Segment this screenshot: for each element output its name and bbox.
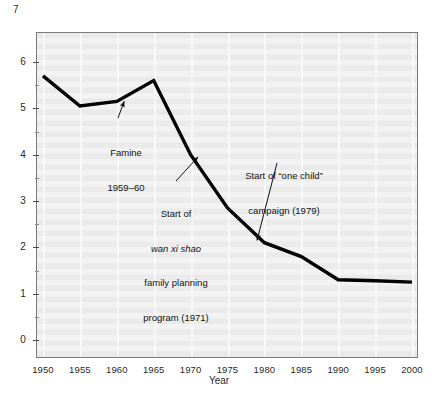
x-tick-label-1965: 1965 (134, 364, 174, 375)
y-tick-2 (33, 247, 39, 248)
x-tick-label-1985: 1985 (281, 364, 321, 375)
y-minor-tick-3.5 (35, 178, 39, 179)
annotation-wan-xi-shao-line-2: wan xi shao (128, 243, 224, 255)
y-tick-label-3: 3 (0, 195, 26, 206)
y-tick-label-6: 6 (0, 56, 26, 67)
y-tick-label-2: 2 (0, 241, 26, 252)
x-tick-label-1975: 1975 (208, 364, 248, 375)
annotation-one-child: Start of “one child” campaign (1979) (224, 147, 344, 239)
x-tick-label-1995: 1995 (355, 364, 395, 375)
y-tick-label-5: 5 (0, 102, 26, 113)
x-tick-label-1950: 1950 (23, 364, 63, 375)
y-tick-label-1: 1 (0, 288, 26, 299)
x-tick-label-1980: 1980 (244, 364, 284, 375)
x-tick-label-1990: 1990 (318, 364, 358, 375)
annotation-wan-xi-shao: Start of wan xi shao family planning pro… (128, 185, 224, 346)
y-tick-4 (33, 155, 39, 156)
gridline-1950 (43, 33, 45, 357)
annotation-one-child-line-2: campaign (1979) (224, 205, 344, 217)
annotation-famine-line-1: Famine (88, 147, 164, 159)
annotation-one-child-line-1: Start of “one child” (224, 170, 344, 182)
gridline-1955 (80, 33, 82, 357)
gridline-1995 (375, 33, 377, 357)
y-tick-label-4: 4 (0, 149, 26, 160)
x-tick-label-1970: 1970 (171, 364, 211, 375)
x-tick-label-2000: 2000 (392, 364, 432, 375)
y-minor-tick-2.5 (35, 224, 39, 225)
annotation-wan-xi-shao-line-4: program (1971) (128, 312, 224, 324)
figure-root: 7 0123456 195019551960196519701975198019… (0, 0, 438, 417)
y-tick-label-0: 0 (0, 334, 26, 345)
y-tick-0 (33, 340, 39, 341)
y-tick-5 (33, 108, 39, 109)
y-minor-tick-0.5 (35, 317, 39, 318)
gridline-2000 (412, 33, 414, 357)
x-tick-label-1960: 1960 (97, 364, 137, 375)
x-axis-title: Year (0, 375, 438, 386)
y-tick-3 (33, 201, 39, 202)
annotation-wan-xi-shao-line-1: Start of (128, 208, 224, 220)
y-minor-tick-4.5 (35, 132, 39, 133)
y-tick-6 (33, 62, 39, 63)
x-tick-label-1955: 1955 (60, 364, 100, 375)
annotation-wan-xi-shao-line-3: family planning (128, 277, 224, 289)
axis-max-label: 7 (13, 4, 19, 15)
y-tick-1 (33, 294, 39, 295)
y-minor-tick-5.5 (35, 85, 39, 86)
y-minor-tick-1.5 (35, 271, 39, 272)
